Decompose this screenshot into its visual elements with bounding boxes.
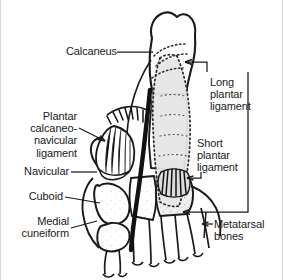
label-cuboid: Cuboid — [9, 190, 63, 202]
medial-cuneiform-bone — [97, 223, 129, 252]
label-metatarsal-bones: Metatarsal bones — [214, 218, 283, 242]
short-plantar-ligament — [158, 169, 190, 197]
label-navicular: Navicular — [5, 165, 69, 177]
label-long-plantar-ligament: Long plantar ligament — [210, 76, 282, 113]
label-plantar-calcaneonavicular-ligament: Plantar calcaneo- navicular ligament — [7, 110, 77, 159]
label-calcaneus: Calcaneus — [45, 45, 117, 57]
label-medial-cuneiform: Medial cuneiform — [3, 215, 69, 239]
label-short-plantar-ligament: Short plantar ligament — [197, 137, 269, 174]
foot-ligament-figure: Calcaneus Plantar calcaneo- navicular li… — [0, 0, 283, 280]
